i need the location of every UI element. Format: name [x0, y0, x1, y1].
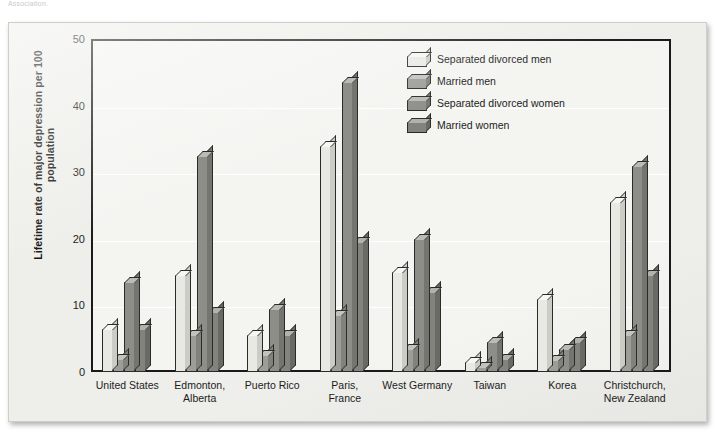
x-axis-tick-label-line: Christchurch,	[587, 379, 684, 392]
figure-panel: 01020304050 United StatesEdmonton,Albert…	[8, 22, 707, 422]
legend-item: Married women	[407, 115, 592, 135]
gridline	[93, 174, 669, 175]
y-axis-tick-label: 10	[59, 299, 85, 311]
legend-label: Separated divorced men	[437, 53, 551, 65]
legend: Separated divorced menMarried menSeparat…	[407, 49, 592, 137]
x-axis-tick-label-line: France	[297, 392, 394, 405]
y-axis-tick-label: 20	[59, 233, 85, 245]
y-axis-tick-labels: 01020304050	[53, 39, 85, 372]
legend-item: Separated divorced men	[407, 49, 592, 69]
clipped-caption-fragment: Association.	[8, 0, 48, 9]
legend-label: Separated divorced women	[437, 97, 565, 109]
gridline	[93, 307, 669, 308]
x-axis-tick-label-line: New Zealand	[587, 392, 684, 405]
y-axis-title: Lifetime rate of major depression per 10…	[32, 30, 56, 280]
x-axis-tick-label-line: Alberta	[152, 392, 249, 405]
x-axis-tick-label: Christchurch,New Zealand	[587, 379, 684, 405]
legend-item: Married men	[407, 71, 592, 91]
y-axis-tick-label: 0	[59, 366, 85, 378]
y-axis-tick-label: 40	[59, 100, 85, 112]
gridline	[93, 241, 669, 242]
y-axis-tick-label: 50	[59, 33, 85, 45]
legend-label: Married men	[437, 75, 496, 87]
legend-swatch-icon	[407, 56, 427, 67]
legend-swatch-icon	[407, 100, 427, 111]
y-axis-tick-label: 30	[59, 166, 85, 178]
legend-swatch-icon	[407, 78, 427, 89]
legend-item: Separated divorced women	[407, 93, 592, 113]
legend-swatch-icon	[407, 122, 427, 133]
x-axis-tick-labels: United StatesEdmonton,AlbertaPuerto Rico…	[91, 379, 671, 415]
legend-label: Married women	[437, 119, 509, 131]
